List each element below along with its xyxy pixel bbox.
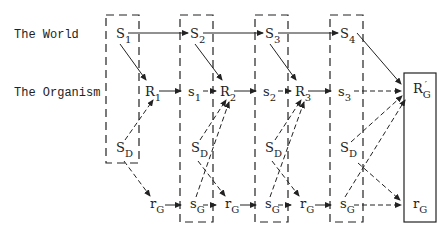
node-S1: S1: [116, 26, 131, 45]
node-SD-3: SD: [265, 140, 282, 159]
row-label-world: The World: [14, 28, 79, 42]
node-rG-2: rG: [225, 196, 239, 215]
node-s3: s3: [338, 84, 351, 103]
node-R2: R2: [220, 84, 236, 103]
node-S3: S3: [265, 26, 280, 45]
arrow-sd4-rgprime: [351, 96, 402, 142]
arrow-s3-r3: [270, 44, 296, 80]
node-SD-1: SD: [116, 140, 133, 159]
arrow-sd4-rggoal: [358, 163, 400, 200]
node-SD-2: SD: [191, 140, 208, 159]
node-rG-1: rG: [150, 196, 164, 215]
node-sG-2: sG: [265, 196, 280, 215]
node-rG-3: rG: [300, 196, 314, 215]
node-RG-prime: RG′: [413, 79, 431, 100]
node-rG-goal: rG: [413, 196, 427, 215]
node-sG-1: sG: [190, 196, 205, 215]
arrow-sd3-rg3: [272, 161, 299, 196]
arrow-s2-r2: [195, 44, 222, 80]
node-R3: R3: [295, 84, 311, 103]
arrow-sd1-rg1: [124, 161, 150, 196]
node-S4: S4: [340, 26, 355, 45]
habit-family-diagram: The World The Organism: [0, 0, 448, 239]
node-SD-4: SD: [340, 140, 357, 159]
stage-box-4: [330, 15, 363, 222]
node-S2: S2: [190, 26, 205, 45]
node-s1: s1: [188, 84, 201, 103]
node-sG-3: sG: [340, 196, 355, 215]
node-s2: s2: [263, 84, 276, 103]
arrow-s1-r1: [120, 44, 146, 80]
row-label-organism: The Organism: [14, 86, 100, 100]
